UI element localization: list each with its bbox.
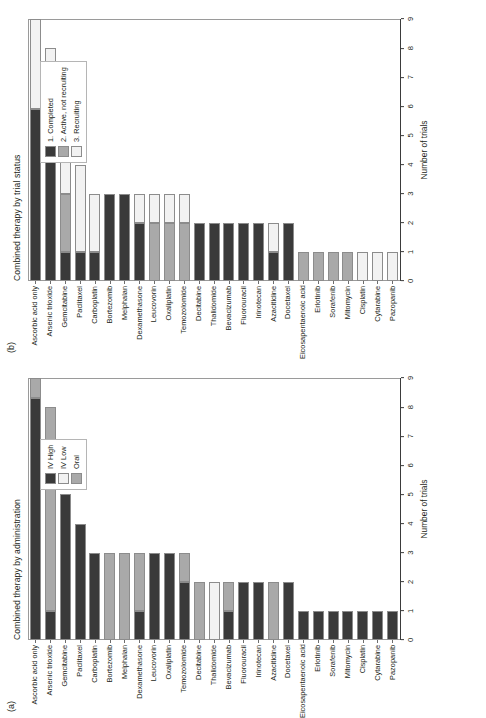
x-tick-label: 0 <box>401 279 415 283</box>
bar-segment <box>45 611 56 640</box>
bar-segment <box>119 553 130 640</box>
bar-segment <box>342 252 353 281</box>
legend-label: 3. Recruiting <box>72 101 81 143</box>
category-label: Leucovorin <box>150 640 157 718</box>
bar-segment <box>372 252 383 281</box>
x-tick-label: 7 <box>401 434 415 438</box>
x-tick-mark <box>401 281 404 282</box>
bar-segment <box>134 553 145 611</box>
category-label: Cytarabine <box>374 281 381 359</box>
legend-label: 1. Completed <box>46 98 55 142</box>
bar-row <box>298 378 309 640</box>
legend-item: IV Low <box>58 445 69 484</box>
x-tick-label: 2 <box>401 580 415 584</box>
panel-a: (a) Combined therapy by administration A… <box>0 359 486 718</box>
bar-row <box>328 19 339 281</box>
bar-row <box>104 19 115 281</box>
bar-segment <box>298 611 309 640</box>
bar-segment <box>134 223 145 281</box>
category-label: Bortezomib <box>106 640 113 718</box>
x-tick-label: 4 <box>401 162 415 166</box>
bar-segment <box>104 194 115 281</box>
legend-swatch-icon <box>58 146 69 157</box>
x-tick-label: 2 <box>401 221 415 225</box>
bar-segment <box>164 553 175 640</box>
bar-row <box>372 19 383 281</box>
x-tick-label: 5 <box>401 492 415 496</box>
bar-row <box>223 378 234 640</box>
category-label: Thalidomide <box>210 640 217 718</box>
bar-segment <box>253 582 264 640</box>
category-label: Sorafenib <box>329 640 336 718</box>
bar-row <box>209 19 220 281</box>
category-label: Pazopanib <box>389 640 396 718</box>
category-label: Carboplatin <box>91 640 98 718</box>
x-tick-label: 7 <box>401 75 415 79</box>
bar-row <box>253 19 264 281</box>
x-tick-label: 8 <box>401 405 415 409</box>
bar-segment <box>194 582 205 640</box>
bar-row <box>30 378 41 640</box>
category-label: Arsenic trioxide <box>46 640 53 718</box>
x-tick-mark <box>401 106 404 107</box>
x-tick-label: 4 <box>401 521 415 525</box>
category-label: Eicosapentaenoic acid <box>299 281 306 359</box>
x-tick-mark <box>401 378 404 379</box>
bar-segment <box>75 252 86 281</box>
bar-row <box>283 19 294 281</box>
bar-row <box>342 378 353 640</box>
bar-segment <box>223 611 234 640</box>
x-tick-label: 3 <box>401 551 415 555</box>
bar-row <box>134 19 145 281</box>
bar-row <box>357 19 368 281</box>
category-label: Pazopanib <box>389 281 396 359</box>
bar-segment <box>164 223 175 281</box>
panel-b-category-labels: Ascorbic acid onlyArsenic trioxideGemcit… <box>28 281 400 359</box>
x-tick-mark <box>401 523 404 524</box>
category-label: Bevacizumab <box>225 281 232 359</box>
category-label: Paclitaxel <box>76 281 83 359</box>
bar-row <box>149 19 160 281</box>
bar-row <box>149 378 160 640</box>
category-label: Melphalan <box>121 281 128 359</box>
bar-row <box>313 19 324 281</box>
bar-row <box>342 19 353 281</box>
bar-segment <box>372 611 383 640</box>
category-label: Docetaxel <box>284 640 291 718</box>
panel-a-tag: (a) <box>6 701 16 712</box>
category-label: Ascorbic acid only <box>31 281 38 359</box>
x-tick-mark <box>401 193 404 194</box>
bar-segment <box>164 194 175 223</box>
bar-segment <box>45 407 56 611</box>
panel-b-title: Combined therapy by trial status <box>12 155 22 281</box>
x-tick-mark <box>401 581 404 582</box>
bar-segment <box>194 223 205 281</box>
bar-row <box>75 378 86 640</box>
x-tick-mark <box>401 77 404 78</box>
bar-row <box>194 378 205 640</box>
legend-swatch-icon <box>45 146 56 157</box>
x-tick-mark <box>401 222 404 223</box>
category-label: Leucovorin <box>150 281 157 359</box>
bar-row <box>89 19 100 281</box>
panel-a-category-labels: Ascorbic acid onlyArsenic trioxideGemcit… <box>28 640 400 718</box>
x-tick-mark <box>401 640 404 641</box>
bar-segment <box>238 582 249 640</box>
category-label: Mitomycin <box>344 281 351 359</box>
category-label: Temozolomide <box>180 640 187 718</box>
category-label: Sorafenib <box>329 281 336 359</box>
bar-row <box>119 19 130 281</box>
bar-row <box>253 378 264 640</box>
legend-swatch-icon <box>71 473 82 484</box>
x-tick-mark <box>401 407 404 408</box>
category-label: Erlotinib <box>314 640 321 718</box>
bar-row <box>179 19 190 281</box>
bar-row <box>387 19 398 281</box>
bar-row <box>238 378 249 640</box>
panel-a-legend: IV HighIV LowOral <box>40 439 87 490</box>
x-tick-mark <box>401 610 404 611</box>
bar-segment <box>387 611 398 640</box>
category-label: Fluorouracil <box>240 281 247 359</box>
legend-label: 2. Active, not recruiting <box>59 67 68 142</box>
category-label: Dexamethasone <box>136 281 143 359</box>
